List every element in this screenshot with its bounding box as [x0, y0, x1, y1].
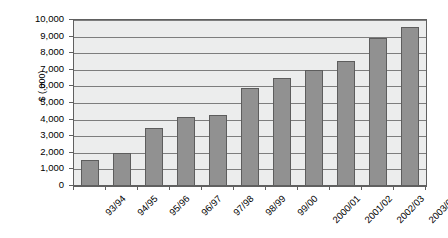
x-axis-line [73, 185, 426, 186]
y-axis-tick-label: 2,000 [40, 147, 64, 157]
x-axis-tick-mark [201, 186, 202, 190]
y-axis-tick-mark [69, 19, 73, 20]
y-axis-tick-label: 0 [59, 180, 64, 190]
plot-area [73, 19, 427, 187]
x-axis-tick-mark [393, 186, 394, 190]
y-axis-tick-mark [69, 135, 73, 136]
y-axis-tick-mark [69, 152, 73, 153]
bar-2002-03 [369, 38, 387, 186]
y-axis-tick-label: 5,000 [40, 97, 64, 107]
x-axis-tick-mark [169, 186, 170, 190]
bars-layer [74, 20, 426, 186]
y-axis-tick-label: 8,000 [40, 47, 64, 57]
bar-2000-01 [305, 70, 323, 186]
bar-95-96 [145, 128, 163, 186]
bar-94-95 [113, 153, 131, 186]
x-axis-tick-label: 2003/04 [426, 193, 448, 225]
y-axis-tick-mark [69, 52, 73, 53]
y-axis-tick-label: 1,000 [40, 163, 64, 173]
y-axis-tick-mark [69, 85, 73, 86]
x-axis-tick-label: 94/95 [135, 193, 160, 218]
x-axis-tick-mark [137, 186, 138, 190]
y-axis-tick-label: 3,000 [40, 130, 64, 140]
x-axis-tick-label: 97/98 [231, 193, 256, 218]
x-axis-tick-mark [105, 186, 106, 190]
x-axis-tick-label: 98/99 [263, 193, 288, 218]
x-axis-tick-label: 2001/02 [362, 193, 394, 225]
x-axis-tick-mark [329, 186, 330, 190]
y-axis-tick-label: 10,000 [35, 14, 64, 24]
bar-2001-02 [337, 61, 355, 186]
x-axis-tick-label: 95/96 [167, 193, 192, 218]
x-axis-tick-mark [297, 186, 298, 190]
bar-96-97 [177, 117, 195, 186]
x-axis-tick-label: 2000/01 [330, 193, 362, 225]
y-axis-tick-label: 7,000 [40, 64, 64, 74]
y-axis-tick-mark [69, 168, 73, 169]
x-axis-tick-mark [265, 186, 266, 190]
bar-99-00 [273, 78, 291, 186]
bar-chart: $ (,000) 10,0009,0008,0007,0006,0005,000… [0, 0, 448, 238]
x-axis-tick-label: 2002/03 [394, 193, 426, 225]
x-axis-tick-mark [73, 186, 74, 190]
y-axis-tick-label: 6,000 [40, 80, 64, 90]
x-axis-tick-label: 96/97 [199, 193, 224, 218]
x-axis-tick-mark [425, 186, 426, 190]
y-axis-tick-mark [69, 119, 73, 120]
y-axis-tick-labels: 10,0009,0008,0007,0006,0005,0004,0003,00… [0, 0, 70, 238]
x-axis-tick-mark [233, 186, 234, 190]
y-axis-tick-label: 4,000 [40, 114, 64, 124]
x-axis-tick-mark [361, 186, 362, 190]
x-axis-tick-label: 99/00 [295, 193, 320, 218]
bar-2003-04 [401, 27, 419, 186]
y-axis-tick-mark [69, 69, 73, 70]
y-axis-tick-label: 9,000 [40, 31, 64, 41]
y-axis-tick-mark [69, 36, 73, 37]
x-axis-tick-label: 93/94 [103, 193, 128, 218]
bar-98-99 [241, 88, 259, 186]
y-axis-tick-mark [69, 102, 73, 103]
bar-97-98 [209, 115, 227, 186]
bar-93-94 [81, 160, 99, 186]
